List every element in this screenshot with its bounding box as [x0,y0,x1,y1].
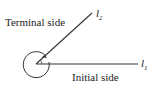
terminal-side-label: Terminal side [5,16,65,28]
initial-side-label: Initial side [72,71,119,83]
angle-arc [40,60,42,64]
angle-diagram: Terminal side Initial side l2 l1 [0,0,153,90]
ray-l2-label: l2 [96,7,103,22]
ray-l1-label: l1 [141,57,148,72]
